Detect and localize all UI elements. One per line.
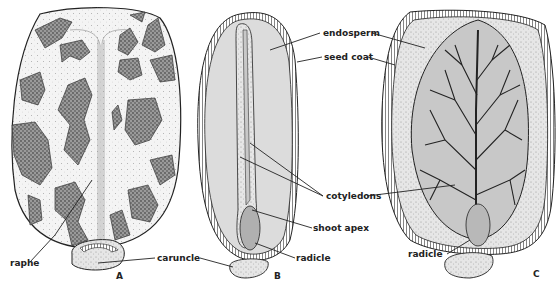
label-caruncle: caruncle bbox=[157, 253, 200, 263]
panel-label-a: A bbox=[116, 271, 123, 281]
seed-diagram: raphe caruncle endosperm seed coat cotyl… bbox=[0, 0, 558, 283]
label-cotyledons: cotyledons bbox=[326, 191, 381, 201]
panel-label-b: B bbox=[274, 271, 281, 281]
label-raphe: raphe bbox=[10, 258, 39, 268]
label-shoot-apex: shoot apex bbox=[313, 223, 369, 233]
panel-a-seed-exterior bbox=[12, 8, 181, 270]
caruncle-b bbox=[230, 259, 269, 278]
label-radicle-c: radicle bbox=[408, 249, 443, 259]
caruncle-c bbox=[445, 253, 493, 278]
label-radicle-b: radicle bbox=[296, 253, 331, 263]
label-endosperm: endosperm bbox=[323, 28, 380, 38]
panel-label-c: C bbox=[533, 269, 540, 279]
panel-b-seed-section-edge bbox=[198, 13, 299, 278]
label-seed-coat: seed coat bbox=[324, 52, 374, 62]
radicle-c bbox=[466, 204, 490, 246]
caruncle-a bbox=[72, 240, 124, 270]
panel-c-seed-section-face bbox=[382, 10, 555, 278]
